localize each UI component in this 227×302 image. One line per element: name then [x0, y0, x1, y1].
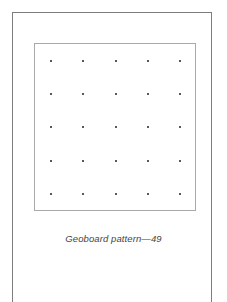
peg-r4-c3	[115, 160, 117, 162]
peg-r3-c4	[147, 126, 149, 128]
peg-r1-c4	[147, 60, 149, 62]
peg-r2-c5	[179, 93, 181, 95]
peg-r2-c2	[82, 93, 84, 95]
peg-r3-c3	[115, 126, 117, 128]
figure-caption: Geoboard pattern—49	[0, 233, 227, 244]
peg-r4-c5	[179, 160, 181, 162]
peg-r4-c1	[50, 160, 52, 162]
peg-r1-c5	[179, 60, 181, 62]
geoboard	[34, 43, 196, 211]
peg-r3-c2	[82, 126, 84, 128]
peg-r1-c1	[50, 60, 52, 62]
peg-r5-c2	[82, 193, 84, 195]
peg-r4-c2	[82, 160, 84, 162]
peg-r5-c3	[115, 193, 117, 195]
peg-r2-c4	[147, 93, 149, 95]
peg-r1-c2	[82, 60, 84, 62]
peg-r3-c5	[179, 126, 181, 128]
peg-r1-c3	[115, 60, 117, 62]
peg-r2-c3	[115, 93, 117, 95]
peg-r5-c4	[147, 193, 149, 195]
peg-r5-c5	[179, 193, 181, 195]
peg-r5-c1	[50, 193, 52, 195]
peg-r2-c1	[50, 93, 52, 95]
peg-r3-c1	[50, 126, 52, 128]
peg-r4-c4	[147, 160, 149, 162]
